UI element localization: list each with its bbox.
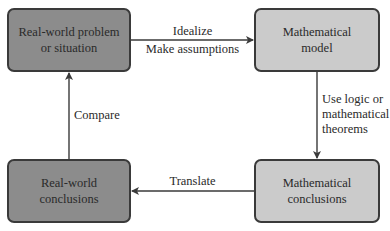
node-real-world-conclusions: Real-world conclusions: [7, 159, 131, 223]
node-label: Mathematical conclusions: [283, 175, 352, 207]
node-mathematical-conclusions: Mathematical conclusions: [254, 159, 380, 223]
edge-label-idealize: Idealize: [131, 24, 254, 39]
node-label: Real-world conclusions: [39, 175, 98, 207]
node-real-world-problem: Real-world problem or situation: [7, 8, 131, 72]
node-mathematical-model: Mathematical model: [254, 8, 380, 72]
node-label: Real-world problem or situation: [18, 24, 119, 56]
edge-label-make-assumptions: Make assumptions: [131, 42, 254, 57]
edge-label-translate: Translate: [131, 174, 254, 189]
edge-label-use-logic: Use logic or mathematical theorems: [322, 92, 389, 137]
node-label: Mathematical model: [283, 24, 352, 56]
edge-label-compare: Compare: [74, 108, 120, 123]
